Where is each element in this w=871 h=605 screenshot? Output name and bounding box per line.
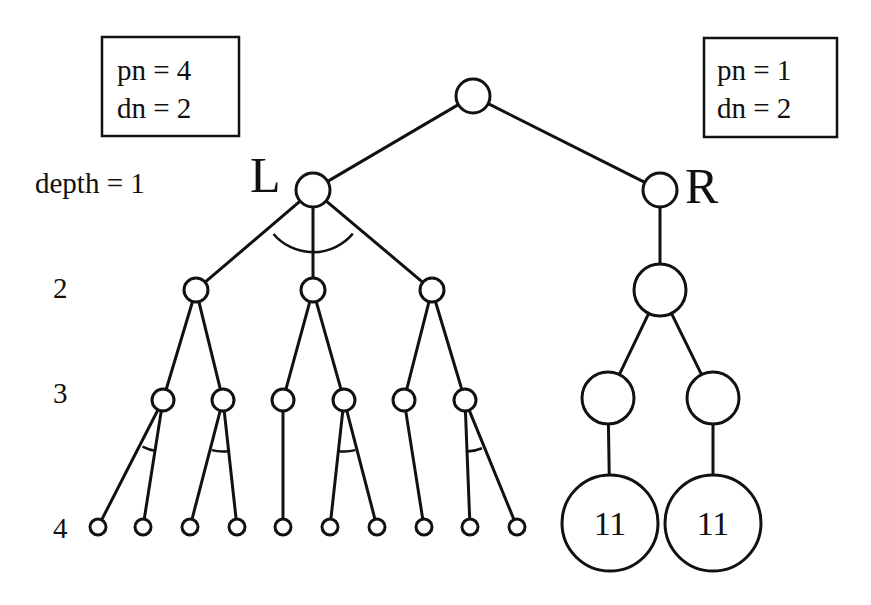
tree-node-l3b: [212, 389, 234, 411]
tree-node-l4f: [322, 519, 338, 535]
depth-label-4: 4: [53, 512, 68, 544]
tree-edge: [469, 410, 514, 519]
node-circle: [420, 278, 444, 302]
node-circle: [182, 519, 198, 535]
node-circle: [184, 278, 208, 302]
node-circle: [582, 372, 634, 424]
tree-edge: [286, 302, 310, 390]
node-circle: [229, 519, 245, 535]
and-arc-icon: [467, 448, 482, 451]
tree-edge: [144, 411, 161, 519]
tree-node-l4g: [369, 519, 385, 535]
tree-edge: [671, 313, 701, 374]
tree-node-l2c: [420, 278, 444, 302]
tree-node-l3f: [454, 389, 476, 411]
tree-node-l: [296, 173, 330, 207]
tree-node-r2: [634, 264, 686, 316]
tree-node-r3a: [582, 372, 634, 424]
node-value-label: 11: [697, 505, 730, 542]
and-arc-icon: [339, 450, 355, 451]
proof-number-tree-diagram: 1111 pn = 4 dn = 2 pn = 1 dn = 2 L R dep…: [0, 0, 871, 605]
depth-label-2: 2: [53, 272, 68, 304]
tree-node-l4e: [275, 519, 291, 535]
left-dn-value: dn = 2: [117, 92, 191, 124]
tree-node-l4h: [416, 519, 432, 535]
node-circle: [272, 389, 294, 411]
tree-edge: [316, 302, 341, 390]
tree-edge: [192, 411, 220, 520]
tree-node-root: [456, 79, 490, 113]
tree-node-l2a: [184, 278, 208, 302]
tree-edge: [102, 410, 158, 520]
node-circle: [643, 173, 677, 207]
node-circle: [212, 389, 234, 411]
tree-node-l3d: [333, 389, 355, 411]
node-circle: [393, 389, 415, 411]
tree-node-l4i: [462, 519, 478, 535]
node-circle: [301, 278, 325, 302]
node-circle: [333, 389, 355, 411]
node-circle: [416, 519, 432, 535]
tree-node-r4a: 11: [562, 475, 658, 571]
right-subtree-info-box: pn = 1 dn = 2: [704, 38, 837, 137]
left-pn-value: pn = 4: [117, 54, 192, 86]
tree-edge: [619, 313, 648, 374]
tree-node-r3b: [687, 372, 739, 424]
node-circle: [456, 79, 490, 113]
node-circle: [454, 389, 476, 411]
tree-edge: [407, 302, 429, 390]
right-pn-value: pn = 1: [717, 54, 791, 86]
tree-node-l4j: [509, 519, 525, 535]
tree-node-r: [643, 173, 677, 207]
node-circle: [634, 264, 686, 316]
node-label-R: R: [685, 158, 719, 214]
node-circle: [135, 519, 151, 535]
tree-node-l2b: [301, 278, 325, 302]
node-circle: [296, 173, 330, 207]
tree-node-l3a: [152, 389, 174, 411]
tree-node-r4b: 11: [665, 475, 761, 571]
tree-edge: [331, 411, 343, 519]
node-label-L: L: [250, 147, 281, 203]
tree-edge: [465, 411, 469, 519]
tree-nodes: 1111: [90, 79, 761, 571]
tree-node-l3e: [393, 389, 415, 411]
depth-labels: depth = 1 2 3 4: [35, 167, 145, 544]
tree-edge: [224, 411, 236, 519]
depth-label-3: 3: [53, 377, 68, 409]
depth-label-1: depth = 1: [35, 167, 145, 199]
tree-edge: [205, 201, 300, 282]
node-circle: [90, 519, 106, 535]
tree-node-l4a: [90, 519, 106, 535]
tree-node-l4b: [135, 519, 151, 535]
node-circle: [275, 519, 291, 535]
tree-edge: [435, 301, 461, 389]
tree-edge: [488, 104, 645, 183]
tree-edges: [102, 104, 713, 520]
node-circle: [322, 519, 338, 535]
tree-edge: [328, 105, 459, 182]
node-circle: [509, 519, 525, 535]
tree-edge: [326, 201, 423, 282]
node-circle: [462, 519, 478, 535]
tree-node-l3c: [272, 389, 294, 411]
tree-edge: [166, 301, 192, 389]
node-circle: [152, 389, 174, 411]
tree-node-l4c: [182, 519, 198, 535]
node-value-label: 11: [594, 505, 627, 542]
and-arc-icon: [212, 450, 228, 451]
tree-edge: [347, 411, 375, 520]
right-dn-value: dn = 2: [717, 92, 791, 124]
tree-node-l4d: [229, 519, 245, 535]
node-circle: [369, 519, 385, 535]
tree-edge: [199, 302, 221, 390]
tree-edge: [406, 411, 423, 519]
left-subtree-info-box: pn = 4 dn = 2: [102, 37, 239, 136]
tree-edge: [608, 424, 609, 475]
node-circle: [687, 372, 739, 424]
